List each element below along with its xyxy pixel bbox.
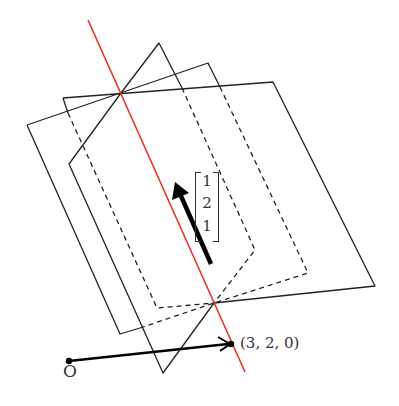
left-bracket	[195, 172, 201, 242]
point-320	[228, 341, 234, 347]
point-label: (3, 2, 0)	[240, 334, 299, 352]
figure-canvas: 1 2 1 (3, 2, 0) O	[0, 0, 399, 406]
vector-component-x: 1	[202, 172, 212, 190]
plane-wide-left	[27, 125, 140, 334]
vector-component-z: 1	[202, 217, 212, 235]
plane-front-top	[63, 82, 375, 303]
plane-front-left-stub	[63, 98, 68, 113]
position-vector	[69, 344, 228, 361]
direction-vector-label: 1 2 1	[195, 170, 219, 242]
origin-label: O	[63, 361, 77, 381]
plane-wide-right-dashed	[214, 87, 308, 303]
right-bracket	[213, 172, 219, 242]
vector-component-y: 2	[202, 194, 212, 212]
